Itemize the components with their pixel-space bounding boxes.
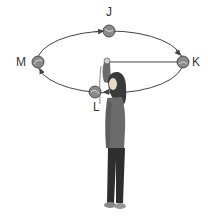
label-m: M [16, 55, 26, 69]
label-j: J [106, 5, 112, 19]
ball-l [89, 86, 101, 98]
label-l: L [93, 100, 100, 114]
label-k: K [192, 55, 200, 69]
ball-k [177, 56, 189, 68]
ball-m [32, 56, 44, 68]
ball-j [103, 25, 115, 37]
diagram [0, 0, 208, 219]
person [100, 58, 127, 209]
